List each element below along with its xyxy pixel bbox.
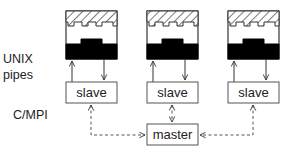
layer-label-pipes: pipes — [3, 68, 33, 82]
unix-pipes — [234, 59, 266, 82]
process-unit-1: slave — [66, 11, 117, 103]
process-chip-icon — [228, 11, 279, 59]
process-unit-2: slave — [147, 11, 198, 103]
slave-label: slave — [238, 85, 268, 100]
layer-label-unix: UNIX — [3, 52, 34, 66]
master-label: master — [153, 127, 193, 142]
process-chip-icon — [66, 11, 117, 59]
unix-pipes — [72, 59, 104, 82]
process-chip-icon — [147, 11, 198, 59]
slave-label: slave — [76, 85, 106, 100]
layer-label-cmpi: C/MPI — [13, 108, 48, 122]
master-slave-diagram: UNIX pipes C/MPI slaveslaveslave master — [0, 0, 288, 156]
slave-node: slave — [66, 82, 117, 103]
slave-label: slave — [157, 85, 187, 100]
slave-node: slave — [147, 82, 198, 103]
mpi-link-slave1-master — [91, 105, 145, 135]
process-unit-3: slave — [228, 11, 279, 103]
mpi-link-slave3-master — [200, 105, 253, 135]
unix-pipes — [153, 59, 185, 82]
master-node: master — [147, 124, 198, 145]
slave-node: slave — [228, 82, 279, 103]
